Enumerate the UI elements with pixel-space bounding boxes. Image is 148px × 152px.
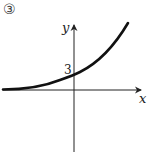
y-intercept-label: 3 [64, 63, 72, 77]
y-axis-label: y [61, 20, 70, 35]
x-axis-label: x [139, 91, 147, 106]
exponential-graph: y x 3 [0, 0, 148, 152]
